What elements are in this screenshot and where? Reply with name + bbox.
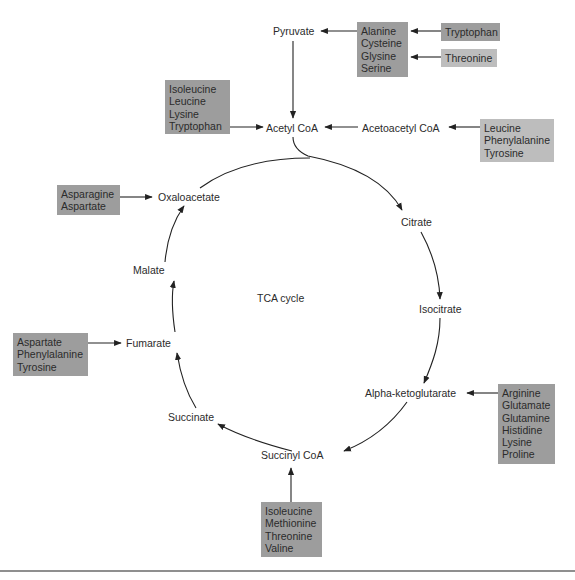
amino-acid-label: Tyrosine (484, 147, 550, 159)
arc-oxaloacetate-top (200, 158, 310, 188)
amino-acid-label: Valine (265, 542, 318, 554)
node-acetoacetyl-coa: Acetoacetyl CoA (362, 122, 440, 134)
amino-acid-label: Asparagine (61, 188, 116, 200)
amino-acid-label: Tryptophan (169, 120, 226, 132)
node-alpha-ketoglutarate: Alpha-ketoglutarate (365, 387, 456, 399)
arrow-isocitrate-to-akg (424, 318, 440, 383)
amino-acid-box-to-oxaloacetate: Asparagine Aspartate (57, 185, 120, 215)
amino-acid-box-to-pyruvate: Alanine Cysteine Glysine Serine (357, 22, 408, 77)
amino-acid-label: Proline (502, 448, 551, 460)
node-acetyl-coa: Acetyl CoA (266, 122, 318, 134)
amino-acid-label: Serine (361, 62, 404, 74)
amino-acid-label: Lysine (169, 108, 226, 120)
amino-acid-label: Isoleucine (265, 505, 318, 517)
arrow-citrate-to-isocitrate (421, 232, 440, 299)
node-pyruvate: Pyruvate (273, 25, 314, 37)
node-oxaloacetate: Oxaloacetate (158, 191, 220, 203)
amino-acid-label: Glutamine (502, 412, 551, 424)
amino-acid-box-to-acetoacetyl-coa: Leucine Phenylalanine Tyrosine (480, 119, 554, 162)
amino-acid-box-to-fumarate: Aspartate Phenylalanine Tyrosine (13, 333, 88, 376)
amino-acid-label: Phenylalanine (484, 134, 550, 146)
node-succinate: Succinate (168, 411, 214, 423)
amino-acid-box-to-alpha-ketoglutarate: Arginine Glutamate Glutamine Histidine L… (498, 384, 555, 464)
amino-acid-label: Glutamate (502, 399, 551, 411)
amino-acid-label: Aspartate (61, 200, 116, 212)
amino-acid-box-threonine: Threonine (441, 49, 497, 67)
arrow-fumarate-to-malate (172, 281, 175, 332)
arrow-succinyl-coa-to-succinate (218, 424, 292, 451)
amino-acid-label: Cysteine (361, 37, 404, 49)
amino-acid-label: Alanine (361, 25, 404, 37)
amino-acid-label: Leucine (484, 122, 550, 134)
amino-acid-label: Methionine (265, 517, 318, 529)
arrows-layer (0, 0, 575, 580)
node-succinyl-coa: Succinyl CoA (261, 449, 323, 461)
node-citrate: Citrate (401, 216, 432, 228)
amino-acid-box-to-acetyl-coa: Isoleucine Leucine Lysine Tryptophan (165, 80, 230, 134)
amino-acid-box-tryptophan: Tryptophan (441, 23, 500, 41)
arrow-akg-to-succinyl-coa (344, 402, 407, 451)
arrow-acetyl-coa-to-citrate (293, 137, 402, 210)
amino-acid-label: Histidine (502, 424, 551, 436)
amino-acid-label: Isoleucine (169, 83, 226, 95)
amino-acid-label: Glysine (361, 50, 404, 62)
arrow-succinate-to-fumarate (177, 353, 196, 408)
amino-acid-label: Threonine (445, 52, 493, 64)
amino-acid-label: Threonine (265, 530, 318, 542)
node-malate: Malate (133, 264, 165, 276)
bottom-divider (0, 570, 575, 572)
amino-acid-label: Arginine (502, 387, 551, 399)
amino-acid-label: Tryptophan (445, 26, 496, 38)
arrow-malate-to-oxaloacetate (165, 206, 184, 262)
amino-acid-label: Tyrosine (17, 361, 84, 373)
amino-acid-box-to-succinyl-coa: Isoleucine Methionine Threonine Valine (261, 502, 322, 557)
node-isocitrate: Isocitrate (419, 303, 462, 315)
amino-acid-label: Leucine (169, 95, 226, 107)
amino-acid-label: Phenylalanine (17, 348, 84, 360)
tca-cycle-title: TCA cycle (257, 292, 304, 304)
amino-acid-label: Aspartate (17, 336, 84, 348)
node-fumarate: Fumarate (126, 337, 171, 349)
amino-acid-label: Lysine (502, 436, 551, 448)
tca-cycle-diagram: Pyruvate Acetyl CoA Acetoacetyl CoA Oxal… (0, 0, 575, 580)
